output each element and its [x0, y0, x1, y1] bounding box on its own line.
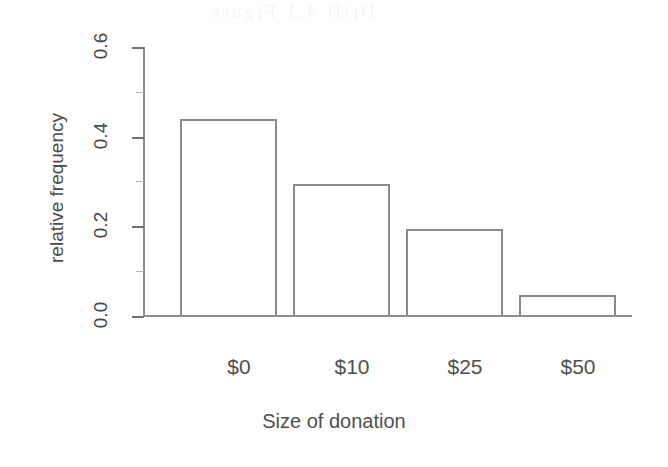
x-tick-label-2: $25 — [405, 355, 525, 379]
y-tick-major-1 — [132, 226, 144, 228]
y-tick-major-3 — [132, 47, 144, 49]
bar-1 — [293, 184, 390, 316]
y-tick-label-1: 0.2 — [90, 202, 112, 248]
x-axis-title: Size of donation — [0, 410, 668, 433]
bar-0 — [180, 119, 277, 316]
y-tick-label-0: 0.0 — [90, 292, 112, 338]
y-axis-title: relative frequency — [46, 88, 68, 288]
x-tick-label-3: $50 — [518, 355, 638, 379]
x-tick-label-1: $10 — [292, 355, 412, 379]
y-axis-line — [143, 47, 145, 317]
y-tick-label-wrap-2: 0.4 — [78, 125, 124, 149]
y-tick-label-2: 0.4 — [90, 113, 112, 159]
y-tick-label-3: 0.6 — [90, 23, 112, 69]
bar-chart: Drill 4.1 Figure relative frequency 0.0 … — [0, 0, 668, 467]
x-tick-label-0: $0 — [179, 355, 299, 379]
y-tick-label-wrap-0: 0.0 — [78, 304, 124, 328]
y-tick-major-2 — [132, 137, 144, 139]
bar-3 — [519, 295, 616, 316]
y-tick-label-wrap-1: 0.2 — [78, 214, 124, 238]
x-axis-line — [143, 315, 632, 317]
scan-bleed-artifact: Drill 4.1 Figure — [75, 1, 375, 23]
bar-2 — [406, 229, 503, 316]
y-tick-minor-0 — [136, 271, 144, 272]
y-tick-minor-1 — [136, 181, 144, 182]
y-tick-minor-2 — [136, 92, 144, 93]
y-tick-label-wrap-3: 0.6 — [78, 35, 124, 59]
